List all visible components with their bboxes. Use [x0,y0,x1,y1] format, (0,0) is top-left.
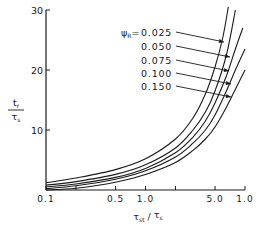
legend-label-0.075: 0.075 [141,55,172,66]
x-axis-label: τst / τs [133,209,162,223]
legend-prefix: ψR= [121,27,139,39]
leader-line [176,86,231,97]
legend-label-0.025: 0.025 [141,27,172,38]
y-tick-label: 10 [31,125,43,136]
curve-psi-0.075 [46,28,243,187]
y-tick-label: 20 [31,65,43,76]
leader-line [176,73,231,84]
leader-line [176,60,229,71]
x-tick-label: 1.0 [236,194,253,204]
leader-line [176,32,224,42]
arrowhead [226,94,231,98]
arrowhead [225,54,230,58]
legend-label-0.150: 0.150 [141,81,172,92]
y-axis-label-numerator: tr [13,97,20,109]
line-chart: 1020300.10.51.05.01.0 ψR=0.0250.0500.075… [0,0,258,228]
legend-label-0.100: 0.100 [141,68,172,79]
x-tick-label: 0.5 [107,194,124,204]
y-axis-label-denominator: τs [12,111,21,123]
chart-container: 1020300.10.51.05.01.0 ψR=0.0250.0500.075… [0,0,258,228]
y-tick-label: 30 [31,5,43,16]
leader-line [176,46,230,57]
x-tick-label: 0.1 [37,194,54,204]
axis-labels: trτsτst / τs [8,97,163,223]
x-tick-label: 1.0 [137,194,154,204]
arrowhead [219,39,224,43]
legend: ψR=0.0250.0500.0750.1000.150 [121,27,231,98]
legend-label-0.050: 0.050 [141,41,172,52]
x-tick-label: 5.0 [206,194,223,204]
